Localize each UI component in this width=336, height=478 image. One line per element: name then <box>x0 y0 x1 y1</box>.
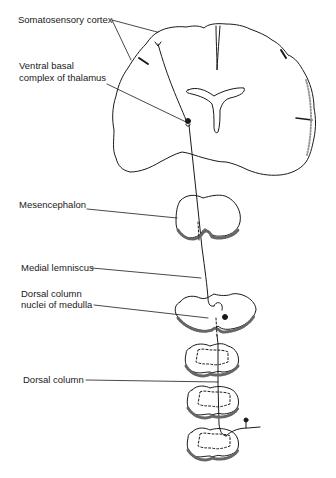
spinal-section-2-outline <box>187 386 238 415</box>
sulcus-right-lateral <box>296 118 312 120</box>
cerebrum-section <box>113 24 316 176</box>
dorsal-root-ganglion-icon <box>244 418 248 422</box>
neural-pathway-diagram: Somatosensory cortex Ventral basal compl… <box>0 0 336 478</box>
label-dorsal-column: Dorsal column <box>23 374 84 385</box>
lateral-ventricle <box>186 88 244 133</box>
medulla-section <box>175 294 256 336</box>
leader-mesencephalon <box>87 209 177 218</box>
label-ventral-basal-line1: Ventral basal <box>19 60 74 71</box>
cortex-shading <box>306 80 311 155</box>
thalamus-nucleus-icon <box>186 119 191 124</box>
medial-lemniscus-fiber <box>189 125 214 306</box>
leader-somatosensory-lower <box>112 20 131 60</box>
label-ventral-basal-line2: complex of thalamus <box>19 72 106 83</box>
label-dorsal-column-nuclei-line1: Dorsal column <box>21 288 82 299</box>
leader-somatosensory-upper <box>112 20 157 32</box>
label-somatosensory-cortex: Somatosensory cortex <box>18 14 113 25</box>
dorsal-column-nucleus-icon <box>223 315 228 320</box>
spinal-section-1-shading <box>186 366 238 376</box>
spinal-section-1-outline <box>185 344 238 373</box>
label-medial-lemniscus: Medial lemniscus <box>21 262 94 273</box>
sulcus-left-upper <box>139 58 148 64</box>
peripheral-afferent-fiber <box>226 427 260 436</box>
medulla-synapse <box>214 303 222 310</box>
leader-medial-lemniscus <box>92 268 201 278</box>
label-dorsal-column-nuclei-line2: nuclei of medulla <box>21 299 92 310</box>
leader-ventral-basal <box>107 84 186 122</box>
spinal-cord-section-2 <box>187 386 238 418</box>
mesencephalon-section <box>176 195 240 240</box>
leader-dorsal-column-nuclei <box>94 305 208 318</box>
spinal-cord-section-1 <box>185 344 238 376</box>
cerebrum-outline <box>113 24 316 176</box>
leader-dorsal-column <box>86 380 218 382</box>
medulla-dashed-path <box>216 318 217 336</box>
thalamocortical-fiber <box>158 44 186 120</box>
label-mesencephalon: Mesencephalon <box>19 199 86 210</box>
longitudinal-fissure <box>216 26 220 70</box>
spinal-section-1-gray-matter <box>196 349 228 365</box>
spinal-section-2-gray-matter <box>198 391 230 407</box>
